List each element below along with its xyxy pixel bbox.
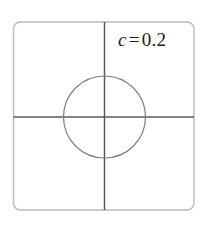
unit-cell-diagram-canvas — [0, 0, 203, 233]
volume-fraction-value: 0.2 — [142, 29, 167, 50]
figure-container: c=0.2 — [0, 0, 203, 233]
volume-fraction-label: c=0.2 — [118, 30, 166, 49]
equals-sign: = — [127, 29, 142, 50]
volume-fraction-variable: c — [118, 29, 127, 50]
